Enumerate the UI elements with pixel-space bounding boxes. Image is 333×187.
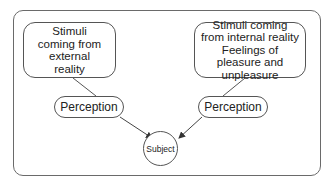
internal-stimuli-label: Stimuli coming from internal reality [195, 19, 305, 44]
subject-node: Subject [143, 131, 178, 166]
internal-stimuli-node: Stimuli coming from internal reality Fee… [194, 22, 306, 78]
external-stimuli-node: Stimuli coming from external reality [23, 22, 116, 78]
perception-left-node: Perception [54, 96, 124, 118]
external-stimuli-label: Stimuli coming from external reality [24, 25, 115, 75]
perception-right-node: Perception [198, 96, 268, 118]
perception-left-label: Perception [60, 100, 117, 114]
subject-label: Subject [146, 144, 174, 154]
feelings-label: Feelings of pleasure and unpleasure [195, 44, 305, 82]
perception-right-label: Perception [204, 100, 261, 114]
